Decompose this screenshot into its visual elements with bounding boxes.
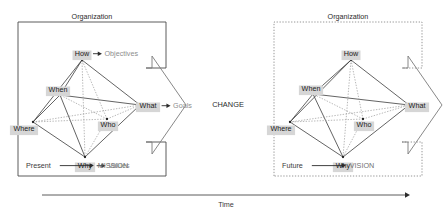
footer-outcome-future: VISION: [350, 161, 374, 170]
edge-how-what-present: [82, 60, 140, 105]
edge-who-what-future: [363, 105, 409, 119]
edge-when-what-present: [60, 95, 140, 105]
outcome-label-what-present: Goals: [173, 101, 192, 110]
outcome-arrow-how-present-head: [98, 51, 102, 56]
edge-who-how-present: [82, 60, 107, 119]
node-label-what-present: What: [140, 101, 157, 110]
node-label-who-future: Who: [357, 120, 372, 129]
edge-who-what-present: [107, 105, 140, 119]
node-label-when-future: When: [302, 84, 321, 93]
node-label-how-future: How: [344, 49, 359, 58]
time-axis-label: Time: [218, 200, 234, 209]
edge-how-why-future: [343, 60, 351, 157]
footer-outcome-present: MISSION: [98, 161, 128, 170]
node-dot-why-future: [342, 156, 344, 158]
edge-what-why-future: [343, 105, 409, 157]
edge-when-where-present: [33, 95, 60, 122]
node-label-what-future: What: [409, 101, 426, 110]
edge-how-why-present: [82, 60, 85, 157]
node-label-how-present: How: [75, 49, 90, 58]
edge-when-why-present: [60, 95, 85, 157]
node-dot-why-present: [84, 156, 86, 158]
diagram-canvas: OrganizationHowWhenWhereWhoWhatWhyObject…: [0, 0, 448, 217]
node-label-where-present: Where: [13, 124, 34, 133]
footer-state-present: Present: [26, 161, 51, 170]
edge-who-when-present: [60, 95, 107, 119]
edge-where-what-present: [33, 105, 140, 122]
node-label-when-present: When: [49, 85, 68, 94]
node-dot-where-present: [32, 121, 34, 123]
edge-when-where-future: [290, 94, 313, 122]
outcome-label-how-present: Objectives: [104, 49, 138, 58]
diagram-artwork: OrganizationHowWhenWhereWhoWhatWhyObject…: [0, 0, 448, 217]
time-axis-arrowhead: [405, 192, 410, 198]
edge-how-what-future: [351, 60, 409, 105]
edge-when-what-future: [313, 94, 409, 105]
edge-who-how-future: [351, 60, 363, 119]
change-label: CHANGE: [212, 100, 244, 109]
edge-where-why-present: [33, 122, 85, 157]
organization-label-future: Organization: [328, 12, 369, 21]
node-label-who-present: Who: [101, 120, 116, 129]
organization-label-present: Organization: [72, 12, 113, 21]
node-dot-where-future: [289, 121, 291, 123]
outcome-arrow-what-present-head: [166, 103, 170, 108]
footer-state-future: Future: [282, 161, 303, 170]
node-label-where-future: Where: [270, 124, 291, 133]
